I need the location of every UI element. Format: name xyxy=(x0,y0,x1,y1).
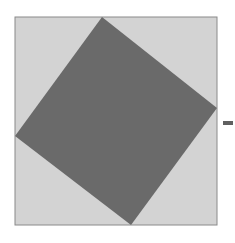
dash-mark xyxy=(223,121,233,125)
diagram-canvas xyxy=(0,0,235,243)
